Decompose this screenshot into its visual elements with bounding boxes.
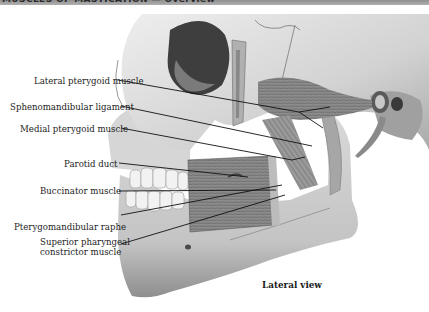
label-superior-pharyngeal-line1: Superior pharyngeal: [40, 237, 130, 247]
label-sphenomandibular-ligament: Sphenomandibular ligament: [10, 102, 134, 112]
header-title: MUSCLES OF MASTICATION — Overview: [2, 0, 215, 4]
label-lateral-pterygoid: Lateral pterygoid muscle: [34, 76, 143, 86]
label-parotid-duct: Parotid duct: [64, 159, 118, 169]
view-label: Lateral view: [262, 280, 322, 290]
buccinator-muscle: [188, 156, 274, 232]
label-pterygomandibular-raphe: Pterygomandibular raphe: [14, 222, 126, 232]
skull-illustration: [0, 0, 429, 312]
label-superior-pharyngeal-line2: constrictor muscle: [40, 247, 121, 257]
label-buccinator: Buccinator muscle: [40, 186, 121, 196]
header-bar: MUSCLES OF MASTICATION — Overview: [0, 0, 429, 5]
label-medial-pterygoid: Medial pterygoid muscle: [20, 124, 128, 134]
